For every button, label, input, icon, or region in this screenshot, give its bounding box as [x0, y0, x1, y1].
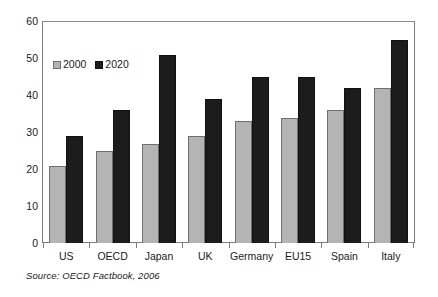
- x-tick-label-eu15: EU15: [275, 249, 321, 265]
- x-tick-label-spain: Spain: [321, 249, 367, 265]
- bar-uk-2000: [188, 136, 205, 243]
- source-note: Source: OECD Factbook, 2006: [26, 270, 160, 281]
- bar-groups: [43, 22, 414, 243]
- x-axis-tick-mark: [368, 243, 369, 248]
- legend-label-2020: 2020: [105, 59, 128, 70]
- y-tick-label-40: 40: [2, 90, 38, 101]
- bar-germany-2000: [235, 121, 252, 243]
- bar-group-germany: [229, 22, 275, 243]
- bar-spain-2020: [344, 88, 361, 243]
- x-tick-label-uk: UK: [182, 249, 228, 265]
- y-tick-label-10: 10: [2, 201, 38, 212]
- bar-oecd-2020: [113, 110, 130, 243]
- chart-legend: 2000 2020: [53, 59, 129, 70]
- bar-italy-2000: [374, 88, 391, 243]
- plot-area: [43, 22, 414, 243]
- bar-uk-2020: [205, 99, 222, 243]
- x-axis-tick-mark: [136, 243, 137, 248]
- x-axis-ticks: [43, 243, 414, 248]
- x-tick-label-japan: Japan: [136, 249, 182, 265]
- bar-group-oecd: [89, 22, 135, 243]
- y-tick-label-30: 30: [2, 127, 38, 138]
- y-axis: 60 50 40 30 20 10 0: [0, 0, 38, 297]
- y-tick-label-50: 50: [2, 53, 38, 64]
- x-axis-tick-mark: [413, 243, 414, 248]
- x-axis-tick-mark: [43, 243, 44, 248]
- bar-germany-2020: [252, 77, 269, 243]
- bar-eu15-2000: [281, 118, 298, 243]
- legend-item-2020: 2020: [95, 59, 128, 70]
- bar-japan-2000: [142, 144, 159, 243]
- legend-swatch-2020-icon: [95, 61, 103, 69]
- bar-italy-2020: [391, 40, 408, 243]
- y-tick-label-20: 20: [2, 164, 38, 175]
- x-tick-label-italy: Italy: [368, 249, 414, 265]
- legend-item-2000: 2000: [53, 59, 86, 70]
- x-axis-tick-mark: [89, 243, 90, 248]
- bar-chart-figure: 60 50 40 30 20 10 0: [0, 0, 438, 297]
- x-axis-tick-mark: [321, 243, 322, 248]
- x-axis-tick-mark: [229, 243, 230, 248]
- legend-swatch-2000-icon: [53, 61, 61, 69]
- bar-us-2020: [66, 136, 83, 243]
- bar-japan-2020: [159, 55, 176, 243]
- y-tick-label-60: 60: [2, 16, 38, 27]
- x-tick-label-us: US: [43, 249, 89, 265]
- bar-group-eu15: [275, 22, 321, 243]
- x-axis-tick-mark: [275, 243, 276, 248]
- y-tick-label-0: 0: [2, 238, 38, 249]
- bar-group-us: [43, 22, 89, 243]
- bar-spain-2000: [327, 110, 344, 243]
- bar-group-uk: [182, 22, 228, 243]
- x-tick-label-germany: Germany: [229, 249, 275, 265]
- bar-group-spain: [321, 22, 367, 243]
- bar-us-2000: [49, 166, 66, 243]
- bar-group-italy: [368, 22, 414, 243]
- x-axis-labels: US OECD Japan UK Germany EU15 Spain Ital…: [43, 249, 414, 265]
- bar-eu15-2020: [298, 77, 315, 243]
- x-axis-tick-mark: [182, 243, 183, 248]
- legend-label-2000: 2000: [63, 59, 86, 70]
- bar-group-japan: [136, 22, 182, 243]
- bar-oecd-2000: [96, 151, 113, 243]
- x-tick-label-oecd: OECD: [89, 249, 135, 265]
